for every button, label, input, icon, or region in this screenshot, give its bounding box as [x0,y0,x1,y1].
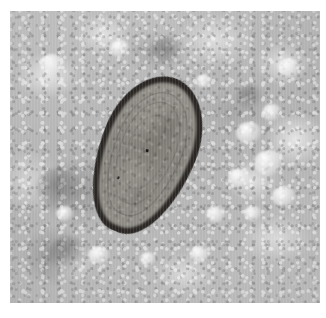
scanline-striping [10,11,320,303]
microscopy-field [10,11,320,303]
micrograph-figure [0,0,326,318]
